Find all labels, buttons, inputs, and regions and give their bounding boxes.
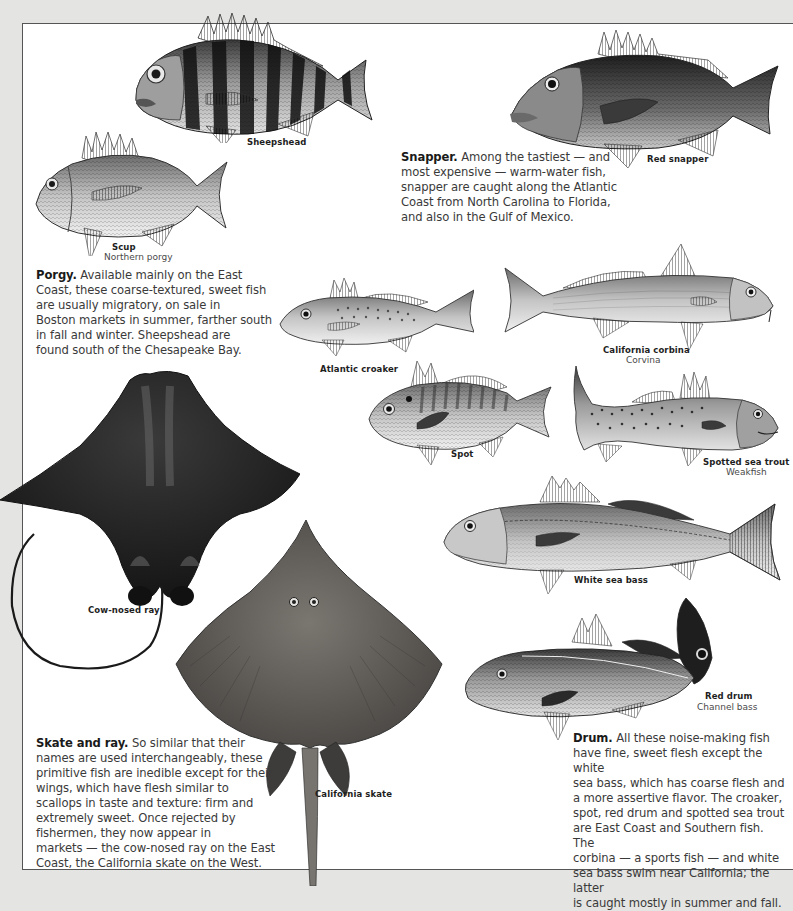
snapper-description: Snapper. Among the tastiest — and most e… [401, 150, 651, 225]
drum-heading: Drum. [573, 731, 613, 745]
label-sheepshead: Sheepshead [247, 137, 306, 147]
skate-and-ray-description: Skate and ray. So similar that their nam… [36, 736, 296, 871]
label-scup: Scup [112, 242, 136, 252]
porgy-heading: Porgy. [36, 268, 77, 282]
spotted-sea-trout-illustration [572, 362, 782, 468]
scup-illustration [32, 128, 232, 256]
label-cow-nosed-ray: Cow-nosed ray [88, 605, 160, 615]
california-corbina-illustration [503, 242, 778, 352]
label-scup-alt: Northern porgy [104, 252, 173, 262]
porgy-description: Porgy. Available mainly on the East Coas… [36, 268, 296, 358]
skate-and-ray-heading: Skate and ray. [36, 736, 128, 750]
label-white-sea-bass: White sea bass [574, 575, 648, 585]
red-drum-illustration [462, 594, 722, 744]
drum-description: Drum. All these noise-making fish have f… [573, 731, 788, 911]
label-red-drum-alt: Channel bass [697, 702, 757, 712]
label-spotted-sea-trout: Spotted sea trout [703, 457, 789, 467]
red-snapper-illustration [508, 30, 785, 170]
label-red-snapper: Red snapper [647, 154, 708, 164]
label-spot: Spot [451, 449, 474, 459]
label-red-drum: Red drum [705, 691, 752, 701]
label-california-corbina: California corbina [603, 345, 690, 355]
atlantic-croaker-illustration [278, 276, 474, 360]
snapper-heading: Snapper. [401, 150, 458, 164]
label-california-skate: California skate [315, 789, 392, 799]
sheepshead-illustration [128, 8, 378, 143]
